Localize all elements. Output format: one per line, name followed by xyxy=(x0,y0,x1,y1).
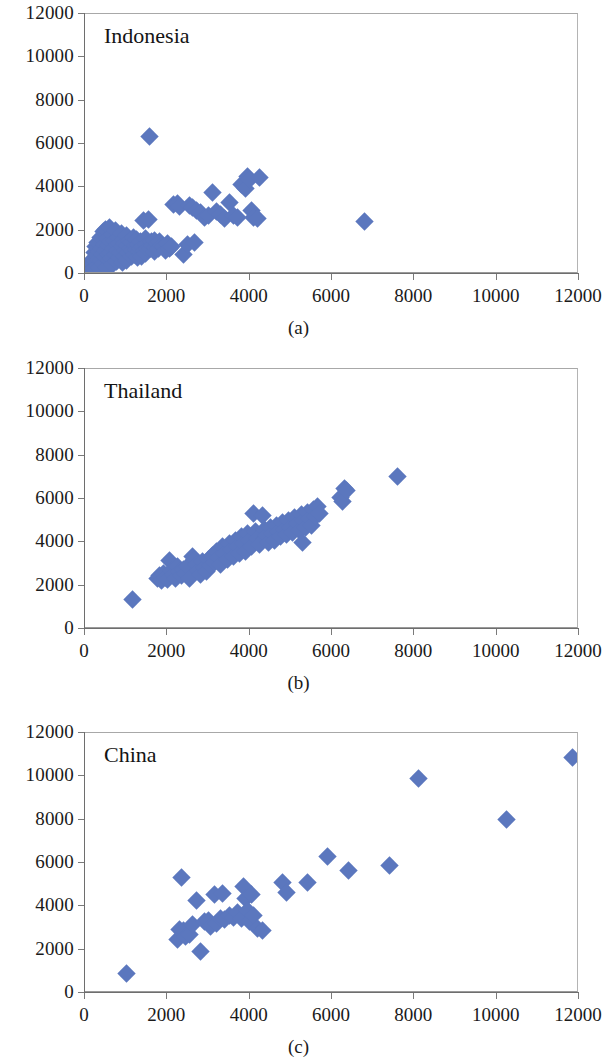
chart-title-a: Indonesia xyxy=(104,24,190,48)
x-tick xyxy=(249,629,250,635)
scatter-point xyxy=(498,810,516,828)
y-tick-label: 10000 xyxy=(2,46,74,65)
plot-area-c xyxy=(85,733,577,991)
y-tick xyxy=(78,455,84,456)
y-tick xyxy=(78,411,84,412)
scatter-point xyxy=(564,749,577,767)
x-tick-label: 4000 xyxy=(204,641,294,660)
x-tick xyxy=(84,993,85,999)
y-tick-label: 0 xyxy=(2,263,74,282)
x-tick-label: 12000 xyxy=(533,641,606,660)
x-tick-label: 2000 xyxy=(121,641,211,660)
y-tick-label: 2000 xyxy=(2,220,74,239)
y-tick-label: 12000 xyxy=(2,358,74,377)
y-tick-label: 6000 xyxy=(2,133,74,152)
y-tick-label: 2000 xyxy=(2,575,74,594)
x-tick xyxy=(331,274,332,280)
y-tick-label: 8000 xyxy=(2,90,74,109)
y-tick xyxy=(78,585,84,586)
y-tick-label: 12000 xyxy=(2,722,74,741)
y-tick-label: 4000 xyxy=(2,895,74,914)
y-tick xyxy=(78,498,84,499)
scatter-point xyxy=(173,868,191,886)
x-tick-label: 10000 xyxy=(451,1005,541,1024)
y-tick xyxy=(78,368,84,369)
x-tick xyxy=(496,629,497,635)
x-tick-label: 8000 xyxy=(368,641,458,660)
y-tick-label: 0 xyxy=(2,982,74,1001)
scatter-point xyxy=(118,964,136,982)
x-tick xyxy=(166,629,167,635)
scatter-point xyxy=(389,467,407,485)
x-tick-label: 8000 xyxy=(368,286,458,305)
y-tick-label: 6000 xyxy=(2,852,74,871)
y-tick xyxy=(78,541,84,542)
x-tick-label: 6000 xyxy=(286,286,376,305)
scatter-point xyxy=(140,127,158,145)
x-tick xyxy=(166,993,167,999)
scatter-point xyxy=(319,847,337,865)
y-tick xyxy=(78,143,84,144)
y-tick-label: 0 xyxy=(2,618,74,637)
y-axis-line-b xyxy=(84,368,85,629)
plot-area-b xyxy=(85,369,577,627)
y-tick xyxy=(78,100,84,101)
panel-caption-c: (c) xyxy=(0,1037,597,1057)
x-tick xyxy=(496,993,497,999)
scatter-point xyxy=(191,943,209,961)
chart-panel-indonesia: 0200040006000800010000120000200040006000… xyxy=(0,0,597,355)
scatter-point xyxy=(298,873,316,891)
panel-caption-b: (b) xyxy=(0,673,597,693)
x-tick xyxy=(166,274,167,280)
plot-box-b xyxy=(84,368,578,628)
x-tick xyxy=(413,629,414,635)
chart-panel-thailand: 0200040006000800010000120000200040006000… xyxy=(0,355,597,710)
x-tick-label: 2000 xyxy=(121,286,211,305)
x-tick-label: 6000 xyxy=(286,1005,376,1024)
plot-box-a xyxy=(84,13,578,273)
scatter-point xyxy=(356,212,374,230)
y-tick xyxy=(78,230,84,231)
x-tick xyxy=(331,629,332,635)
y-tick-label: 8000 xyxy=(2,809,74,828)
chart-panel-china: 0200040006000800010000120000200040006000… xyxy=(0,710,597,1056)
x-tick xyxy=(331,993,332,999)
y-tick xyxy=(78,905,84,906)
scatter-point xyxy=(339,861,357,879)
x-tick xyxy=(578,274,579,280)
y-tick xyxy=(78,732,84,733)
y-tick xyxy=(78,56,84,57)
x-tick xyxy=(496,274,497,280)
y-tick xyxy=(78,949,84,950)
y-tick-label: 2000 xyxy=(2,939,74,958)
scatter-point xyxy=(187,892,205,910)
y-tick xyxy=(78,819,84,820)
y-tick xyxy=(78,13,84,14)
chart-title-b: Thailand xyxy=(104,379,182,403)
x-tick xyxy=(578,629,579,635)
y-tick xyxy=(78,186,84,187)
x-tick xyxy=(249,274,250,280)
y-tick-label: 12000 xyxy=(2,3,74,22)
x-tick-label: 2000 xyxy=(121,1005,211,1024)
x-tick xyxy=(84,629,85,635)
x-tick xyxy=(249,993,250,999)
chart-title-c: China xyxy=(104,743,157,767)
y-tick xyxy=(78,862,84,863)
scatter-point xyxy=(123,590,141,608)
x-tick-label: 10000 xyxy=(451,286,541,305)
scatter-point xyxy=(203,184,221,202)
y-tick-label: 4000 xyxy=(2,176,74,195)
x-tick-label: 0 xyxy=(39,1005,129,1024)
y-tick-label: 6000 xyxy=(2,488,74,507)
y-axis-line-c xyxy=(84,732,85,993)
plot-box-c xyxy=(84,732,578,992)
y-tick-label: 8000 xyxy=(2,445,74,464)
x-tick-label: 4000 xyxy=(204,286,294,305)
panel-caption-a: (a) xyxy=(0,318,597,338)
x-tick-label: 12000 xyxy=(533,286,606,305)
x-tick-label: 8000 xyxy=(368,1005,458,1024)
y-tick xyxy=(78,775,84,776)
scatter-point xyxy=(409,769,427,787)
